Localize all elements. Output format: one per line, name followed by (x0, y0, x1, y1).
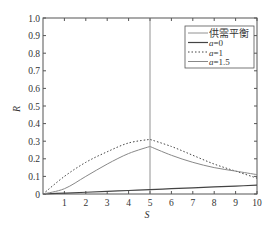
x-tick-label: 2 (83, 198, 88, 208)
line-chart: 00.10.20.30.40.50.60.70.80.91.0123456789… (0, 0, 274, 227)
legend: 供需平衡a=0a=1a=1.5 (185, 26, 254, 68)
x-tick-label: 10 (252, 198, 262, 208)
y-axis-label: R (11, 106, 22, 113)
x-tick-label: 7 (190, 198, 195, 208)
y-tick-label: 0.1 (28, 172, 40, 182)
legend-label: 供需平衡 (209, 27, 249, 39)
y-tick-label: 0.7 (28, 66, 40, 76)
y-tick-label: 0.4 (28, 119, 40, 129)
y-tick-label: 0.2 (28, 154, 40, 164)
y-tick-label: 0.9 (28, 31, 40, 41)
x-axis-label: S (145, 209, 150, 220)
legend-label: a=0 (209, 38, 224, 48)
y-tick-label: 0.3 (28, 137, 40, 147)
y-tick-label: 0 (35, 190, 40, 200)
x-tick-label: 3 (105, 198, 110, 208)
x-tick-label: 5 (148, 198, 153, 208)
x-tick-label: 1 (62, 198, 67, 208)
y-tick-label: 1.0 (28, 14, 40, 24)
y-tick-label: 0.6 (28, 84, 40, 94)
x-tick-label: 9 (233, 198, 238, 208)
x-tick-label: 8 (212, 198, 217, 208)
x-tick-label: 6 (169, 198, 174, 208)
y-tick-label: 0.5 (28, 102, 40, 112)
y-tick-label: 0.8 (28, 49, 40, 59)
x-tick-label: 4 (126, 198, 131, 208)
legend-label: a=1.5 (209, 57, 230, 67)
legend-label: a=1 (209, 48, 223, 58)
